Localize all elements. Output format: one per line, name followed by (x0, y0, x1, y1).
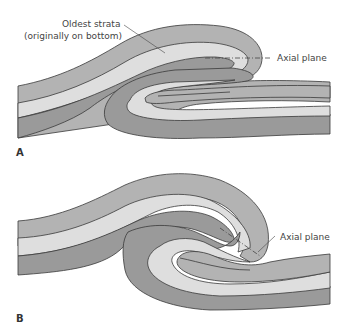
panel-a-axial-plane-label: Axial plane (277, 53, 327, 63)
panel-a-oldest-strata-label-2: (originally on bottom) (24, 31, 122, 41)
panel-a-label: A (16, 147, 24, 158)
panel-b-axial-plane-label: Axial plane (280, 232, 330, 242)
panel-a-oldest-strata-label-1: Oldest strata (62, 19, 120, 29)
fold-diagram: Oldest strata (originally on bottom) Axi… (0, 0, 342, 334)
panel-b-label: B (16, 313, 24, 324)
panel-a-fold (18, 25, 330, 139)
